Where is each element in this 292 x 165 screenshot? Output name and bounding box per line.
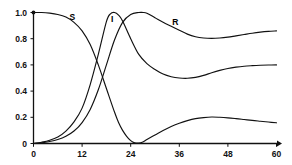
x-axis-tick-labels: 0 12 24 36 48 60	[31, 149, 281, 159]
data-curves	[34, 12, 277, 143]
series-line-s	[34, 12, 277, 143]
curve-label-i: I	[111, 14, 113, 24]
y-tick-label: 0.4	[15, 86, 27, 96]
x-tick-label: 12	[77, 149, 87, 159]
y-tick-label: 0.8	[15, 34, 27, 44]
y-tick-label: 0.2	[15, 112, 27, 122]
series-line-i	[34, 12, 277, 143]
series-line-r	[34, 12, 277, 143]
y-tick-label: 0.6	[15, 60, 27, 70]
x-axis-arrowhead	[277, 141, 282, 147]
axes-group	[32, 11, 282, 147]
chart-screenshot: 1.0 0.8 0.6 0.4 0.2 0 0 12 24 36 48 60 S…	[0, 0, 292, 165]
curve-label-s: S	[70, 12, 76, 22]
x-tick-label: 48	[223, 149, 233, 159]
x-tick-label: 0	[31, 149, 36, 159]
y-tick-label: 0	[22, 139, 27, 149]
sir-line-chart: 1.0 0.8 0.6 0.4 0.2 0 0 12 24 36 48 60 S…	[0, 0, 292, 165]
x-tick-label: 24	[126, 149, 136, 159]
curve-label-r: R	[172, 17, 178, 27]
y-tick-label: 1.0	[15, 8, 27, 18]
x-tick-label: 60	[272, 149, 282, 159]
y-axis-tick-labels: 1.0 0.8 0.6 0.4 0.2 0	[15, 8, 27, 149]
x-tick-label: 36	[175, 149, 185, 159]
